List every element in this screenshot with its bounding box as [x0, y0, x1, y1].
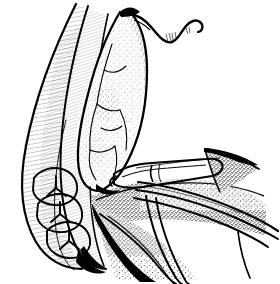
dental-surgery-illustration: Surgical removal of impacted mandibular … [0, 0, 280, 284]
illustration-figure: Surgical removal of impacted mandibular … [0, 0, 280, 284]
